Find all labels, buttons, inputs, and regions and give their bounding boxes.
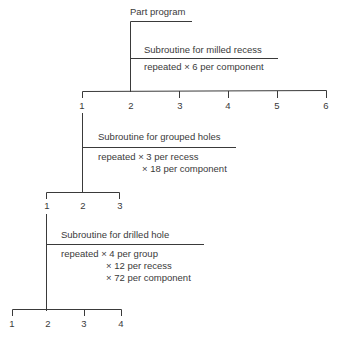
level2-node-2: 2	[80, 200, 85, 211]
level3-repeat-0: repeated × 4 per group	[61, 248, 158, 259]
level2-node-3: 3	[117, 200, 122, 211]
root-label: Part program	[130, 6, 185, 17]
level1-repeat-0: repeated × 6 per component	[144, 61, 264, 72]
level1-node-6: 6	[323, 100, 328, 111]
level3-title: Subroutine for drilled hole	[61, 229, 169, 240]
level3-node-2: 2	[45, 318, 50, 329]
level1-title: Subroutine for milled recess	[144, 44, 262, 55]
level2-repeat-1: × 18 per component	[142, 163, 227, 174]
level3-node-1: 1	[9, 318, 14, 329]
level3-node-3: 3	[81, 318, 86, 329]
level3-node-4: 4	[118, 318, 123, 329]
level2-title: Subroutine for grouped holes	[98, 131, 221, 142]
level2-node-1: 1	[44, 200, 49, 211]
level1-node-1: 1	[79, 100, 84, 111]
level3-repeat-2: × 72 per component	[106, 272, 191, 283]
level1-node-2: 2	[128, 100, 133, 111]
level3-repeat-1: × 12 per recess	[106, 260, 172, 271]
level2-repeat-0: repeated × 3 per recess	[98, 151, 199, 162]
level1-node-3: 3	[177, 100, 182, 111]
level1-node-4: 4	[225, 100, 230, 111]
level1-node-5: 5	[274, 100, 279, 111]
